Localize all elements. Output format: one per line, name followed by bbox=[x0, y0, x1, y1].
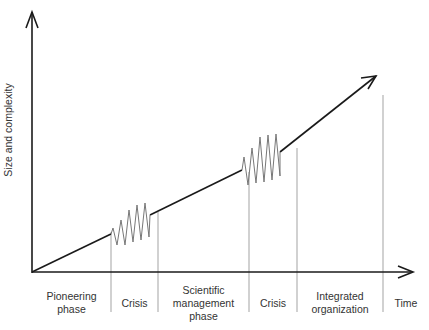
phase-label: management bbox=[173, 297, 234, 310]
trend-pioneering bbox=[32, 234, 111, 272]
phase-label: Integrated bbox=[311, 290, 368, 303]
phase-label: Crisis bbox=[260, 297, 286, 310]
growth-trend-line bbox=[32, 76, 376, 272]
phase-label: phase bbox=[46, 303, 96, 316]
phase-crisis-1: Crisis bbox=[111, 278, 158, 328]
phase-label: organization bbox=[311, 303, 368, 316]
phase-pioneering: Pioneering phase bbox=[32, 278, 111, 328]
phase-label: phase bbox=[173, 310, 234, 323]
trend-integrated bbox=[280, 76, 376, 152]
phase-integrated-organization: Integrated organization bbox=[297, 278, 383, 328]
crisis-wave-1 bbox=[111, 203, 150, 245]
phase-label: Scientific bbox=[173, 284, 234, 297]
axes bbox=[26, 12, 413, 278]
x-axis-label-text: Time bbox=[395, 297, 418, 310]
crisis-waves bbox=[111, 134, 280, 245]
phase-scientific-management: Scientific management phase bbox=[158, 278, 249, 328]
x-axis-label: Time bbox=[383, 278, 429, 328]
crisis-wave-2 bbox=[242, 134, 280, 185]
y-axis-label: Size and complexity bbox=[1, 30, 15, 230]
phase-crisis-2: Crisis bbox=[249, 278, 297, 328]
trend-scientific bbox=[150, 170, 242, 215]
phase-label: Pioneering bbox=[46, 290, 96, 303]
phase-label: Crisis bbox=[121, 297, 147, 310]
y-axis-label-text: Size and complexity bbox=[2, 83, 14, 176]
